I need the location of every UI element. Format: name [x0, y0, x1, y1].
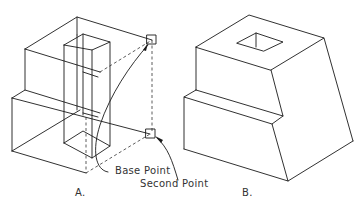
panel-a-label: A.	[75, 187, 85, 198]
panel-a-wireframe	[12, 17, 178, 180]
second-point-label: Second Point	[140, 178, 208, 189]
panel-b-solid	[184, 15, 353, 181]
technical-drawing	[0, 0, 359, 207]
panel-b-label: B.	[242, 187, 253, 198]
base-point-label: Base Point	[115, 165, 170, 176]
